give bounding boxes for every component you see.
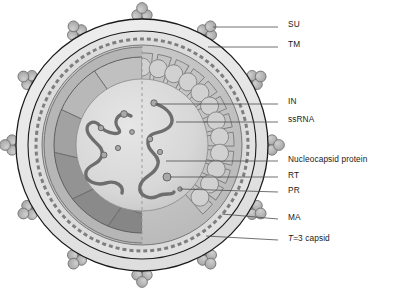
nucleocapsid-bead [121,111,128,118]
nucleocapsid-bead [101,152,107,158]
label-t3-capsid: T=3 capsid [288,234,330,242]
nucleocapsid-bead [130,130,135,135]
label-su: SU [288,20,300,28]
nucleocapsid-bead [98,125,104,131]
label-tm: TM [288,40,300,48]
t3-capsid-text: =3 capsid [293,233,330,243]
virus-structure-diagram [0,0,393,290]
label-pr: PR [288,186,300,194]
label-rt: RT [288,171,299,179]
nucleocapsid-bead [157,149,162,154]
nucleocapsid-bead [147,136,153,142]
integrase-bead [151,100,157,106]
label-ma: MA [288,213,301,221]
nucleocapsid-bead [115,145,120,150]
label-nucleocapsid-protein: Nucleocapsid protein [288,155,367,163]
reverse-transcriptase-bead [163,173,171,181]
label-in: IN [288,97,297,105]
label-ssrna: ssRNA [288,115,314,123]
